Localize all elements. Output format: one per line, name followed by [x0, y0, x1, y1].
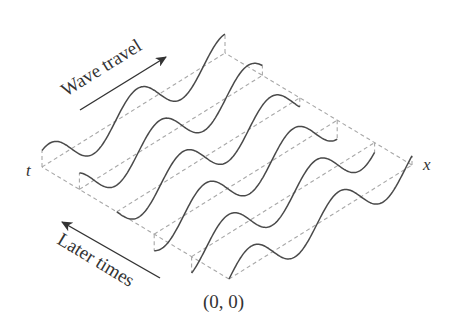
origin-label: (0, 0) — [203, 291, 244, 313]
wave-snapshot-curve — [154, 126, 337, 250]
snapshot-baseline — [117, 98, 300, 212]
snapshot-baseline — [79, 75, 262, 189]
later-times-label: Later times — [54, 228, 139, 290]
wave-snapshot-curve — [79, 63, 262, 187]
snapshot-baseline — [229, 165, 412, 279]
snapshot-baseline — [192, 143, 375, 257]
t-axis-edge — [42, 167, 229, 279]
far-x-edge — [225, 53, 412, 165]
wave-snapshot-curve — [192, 152, 375, 273]
wave-diagram: Wave travel Later times t x (0, 0) — [0, 0, 456, 334]
t-axis-label: t — [26, 161, 32, 180]
x-axis-label: x — [422, 155, 431, 174]
wave-snapshot-curve — [229, 156, 412, 279]
snapshot-baseline — [42, 53, 225, 167]
wave-travel-label: Wave travel — [57, 34, 145, 100]
